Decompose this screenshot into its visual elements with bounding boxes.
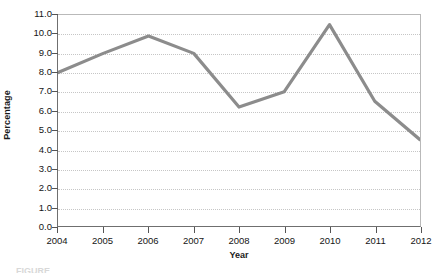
y-axis-tick-label: 3.0 bbox=[14, 164, 52, 174]
x-axis-tick-mark bbox=[194, 227, 195, 233]
x-axis-tick-label: 2010 bbox=[304, 235, 356, 246]
y-axis-tick-mark bbox=[52, 111, 58, 112]
x-axis-title: Year bbox=[57, 250, 421, 260]
x-axis-tick-label: 2011 bbox=[350, 235, 402, 246]
x-axis-tick-label: 2007 bbox=[168, 235, 220, 246]
y-axis-tick-label: 8.0 bbox=[14, 67, 52, 77]
y-axis-title: Percentage bbox=[2, 60, 12, 170]
y-axis-tick-mark bbox=[52, 188, 58, 189]
x-axis-tick-mark bbox=[376, 227, 377, 233]
x-axis-tick-label: 2008 bbox=[213, 235, 265, 246]
y-axis-tick-label: 5.0 bbox=[14, 125, 52, 135]
y-axis-tick-label: 11.0 bbox=[14, 9, 52, 19]
y-axis-tick-mark bbox=[52, 169, 58, 170]
x-axis-tick-label: 2004 bbox=[31, 235, 83, 246]
y-axis-tick-mark bbox=[52, 72, 58, 73]
y-axis-tick-label-group: 11.010.09.08.07.06.05.04.03.02.01.00.0 bbox=[14, 14, 52, 227]
figure-container: Percentage 11.010.09.08.07.06.05.04.03.0… bbox=[0, 0, 435, 273]
y-axis-tick-label: 1.0 bbox=[14, 203, 52, 213]
series-line-chart bbox=[58, 15, 420, 226]
y-axis-tick-label: 2.0 bbox=[14, 183, 52, 193]
figure-caption: FIGURE bbox=[16, 266, 50, 273]
y-axis-tick-label: 0.0 bbox=[14, 222, 52, 232]
x-axis-tick-label: 2009 bbox=[259, 235, 311, 246]
y-axis-tick-label: 10.0 bbox=[14, 28, 52, 38]
y-axis-tick-mark bbox=[52, 150, 58, 151]
y-axis-tick-label: 4.0 bbox=[14, 145, 52, 155]
x-axis-tick-label: 2012 bbox=[395, 235, 435, 246]
y-axis-tick-mark bbox=[52, 91, 58, 92]
y-axis-tick-mark bbox=[52, 33, 58, 34]
y-axis-tick-mark bbox=[52, 208, 58, 209]
x-axis-tick-mark bbox=[148, 227, 149, 233]
x-axis-tick-mark bbox=[103, 227, 104, 233]
series-polyline bbox=[58, 25, 420, 140]
x-axis-tick-mark bbox=[239, 227, 240, 233]
y-axis-tick-label: 6.0 bbox=[14, 106, 52, 116]
y-axis-tick-label: 9.0 bbox=[14, 48, 52, 58]
x-axis-tick-mark bbox=[330, 227, 331, 233]
x-axis-tick-mark bbox=[285, 227, 286, 233]
y-axis-tick-mark bbox=[52, 14, 58, 15]
y-axis-tick-mark bbox=[52, 130, 58, 131]
x-axis-tick-label: 2006 bbox=[122, 235, 174, 246]
y-axis-tick-mark bbox=[52, 53, 58, 54]
x-axis-tick-mark bbox=[57, 227, 58, 233]
y-axis-tick-label: 7.0 bbox=[14, 86, 52, 96]
plot-area bbox=[57, 14, 421, 227]
x-axis-tick-mark bbox=[421, 227, 422, 233]
x-axis-tick-label: 2005 bbox=[77, 235, 129, 246]
